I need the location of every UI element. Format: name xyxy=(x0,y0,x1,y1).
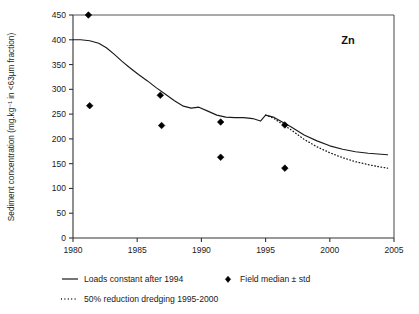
y-tick-label: 450 xyxy=(52,10,66,20)
y-tick-label: 400 xyxy=(52,35,66,45)
y-tick-label: 100 xyxy=(52,183,66,193)
chart-background xyxy=(0,0,419,314)
x-tick-label: 1995 xyxy=(256,245,275,255)
chart-title: Zn xyxy=(341,34,355,46)
x-tick-label: 1980 xyxy=(64,245,83,255)
y-tick-label: 300 xyxy=(52,84,66,94)
y-axis-title: Sediment concentration (mg.kg⁻¹ in <63µm… xyxy=(7,33,16,222)
x-tick-label: 2005 xyxy=(385,245,404,255)
zinc-sediment-concentration-chart: 050100150200250300350400450 198019851990… xyxy=(0,0,419,314)
legend-label-loads-constant: Loads constant after 1994 xyxy=(84,274,184,284)
y-tick-label: 250 xyxy=(52,109,66,119)
y-tick-label: 0 xyxy=(61,233,66,243)
chart-figure: 050100150200250300350400450 198019851990… xyxy=(0,0,419,314)
x-tick-label: 1990 xyxy=(192,245,211,255)
legend-label-dredging-reduction: 50% reduction dredging 1995-2000 xyxy=(84,294,218,304)
legend-label-field-median: Field median ± std xyxy=(240,274,310,284)
y-tick-label: 150 xyxy=(52,159,66,169)
x-tick-label: 1985 xyxy=(128,245,147,255)
y-tick-label: 200 xyxy=(52,134,66,144)
y-tick-label: 350 xyxy=(52,60,66,70)
x-tick-label: 2000 xyxy=(320,245,339,255)
y-tick-label: 50 xyxy=(57,208,67,218)
